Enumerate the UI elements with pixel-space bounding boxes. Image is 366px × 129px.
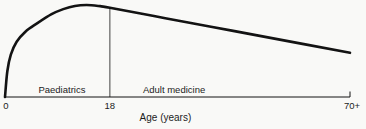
- x-tick-label-70plus: 70+: [344, 100, 361, 111]
- region-label-paediatrics: Paediatrics: [38, 84, 85, 95]
- x-tick-label-18: 18: [105, 100, 116, 111]
- x-tick-labels: 0 18 70+: [3, 100, 360, 111]
- region-label-adult-medicine: Adult medicine: [143, 84, 205, 95]
- growth-chart: 0 18 70+ Paediatrics Adult medicine Age …: [0, 0, 366, 129]
- x-axis-title: Age (years): [140, 112, 192, 123]
- x-tick-label-0: 0: [3, 100, 8, 111]
- growth-chart-figure: 0 18 70+ Paediatrics Adult medicine Age …: [0, 0, 366, 129]
